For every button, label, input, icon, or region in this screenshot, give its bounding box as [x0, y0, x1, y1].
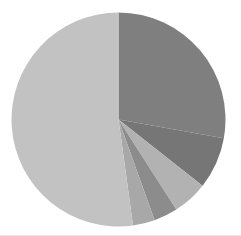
pie-slice[interactable]	[11, 13, 133, 227]
bottom-divider	[0, 235, 241, 236]
pie-chart-figure	[0, 0, 241, 236]
pie-chart-canvas	[0, 0, 241, 236]
pie-slices-group	[11, 13, 225, 227]
pie-slice[interactable]	[119, 13, 226, 139]
